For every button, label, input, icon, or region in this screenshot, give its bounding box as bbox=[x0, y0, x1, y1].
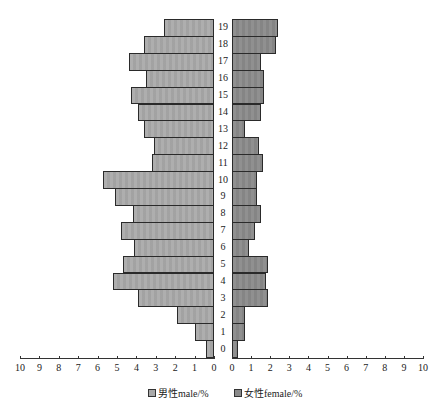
population-pyramid-chart: 012345678910111213141516171819 109876543… bbox=[0, 0, 443, 405]
female-bar-19 bbox=[232, 19, 278, 37]
male-bar-10 bbox=[103, 171, 214, 189]
x-tick-label: 0 bbox=[222, 362, 242, 373]
x-tick-label: 2 bbox=[260, 362, 280, 373]
x-tick-label: 1 bbox=[241, 362, 261, 373]
x-tick bbox=[385, 356, 386, 359]
x-tick-label: 8 bbox=[375, 362, 395, 373]
legend-female-label: 女性female/% bbox=[244, 385, 302, 400]
legend-male-label: 男性male/% bbox=[158, 385, 209, 400]
x-tick bbox=[195, 356, 196, 359]
x-tick bbox=[308, 356, 309, 359]
male-bar-11 bbox=[152, 154, 214, 172]
age-label: 17 bbox=[213, 56, 233, 66]
x-tick-label: 7 bbox=[68, 362, 88, 373]
female-bar-5 bbox=[232, 256, 268, 274]
x-tick bbox=[328, 356, 329, 359]
x-tick bbox=[214, 356, 215, 359]
male-swatch-icon bbox=[148, 389, 156, 397]
x-tick-label: 6 bbox=[88, 362, 108, 373]
x-tick bbox=[366, 356, 367, 359]
age-label: 2 bbox=[213, 310, 233, 320]
female-bar-14 bbox=[232, 104, 261, 122]
x-tick-label: 0 bbox=[204, 362, 224, 373]
age-label: 11 bbox=[213, 158, 233, 168]
x-tick bbox=[78, 356, 79, 359]
x-tick bbox=[156, 356, 157, 359]
female-bar-3 bbox=[232, 289, 268, 307]
male-bar-13 bbox=[144, 120, 214, 138]
female-bar-6 bbox=[232, 239, 249, 257]
age-label: 14 bbox=[213, 107, 233, 117]
male-bar-7 bbox=[121, 222, 214, 240]
age-label: 19 bbox=[213, 22, 233, 32]
x-tick-label: 9 bbox=[394, 362, 414, 373]
x-tick-label: 4 bbox=[298, 362, 318, 373]
x-tick-label: 4 bbox=[126, 362, 146, 373]
female-bar-15 bbox=[232, 87, 264, 105]
x-tick bbox=[175, 356, 176, 359]
female-swatch-icon bbox=[234, 389, 242, 397]
male-bar-8 bbox=[133, 205, 214, 223]
male-bar-1 bbox=[195, 323, 214, 341]
female-bar-4 bbox=[232, 273, 266, 291]
female-bar-16 bbox=[232, 70, 264, 88]
x-tick bbox=[347, 356, 348, 359]
x-tick bbox=[136, 356, 137, 359]
female-bar-13 bbox=[232, 120, 245, 138]
male-bar-9 bbox=[115, 188, 214, 206]
female-bar-2 bbox=[232, 306, 245, 324]
male-bar-19 bbox=[164, 19, 214, 37]
x-tick bbox=[20, 356, 21, 359]
male-bar-3 bbox=[138, 289, 214, 307]
age-label: 15 bbox=[213, 90, 233, 100]
female-bar-11 bbox=[232, 154, 263, 172]
x-tick bbox=[98, 356, 99, 359]
age-label: 1 bbox=[213, 327, 233, 337]
male-bar-16 bbox=[146, 70, 214, 88]
male-bar-5 bbox=[123, 256, 214, 274]
male-bar-18 bbox=[144, 36, 214, 54]
x-tick bbox=[59, 356, 60, 359]
age-label: 5 bbox=[213, 259, 233, 269]
female-bar-1 bbox=[232, 323, 245, 341]
age-label: 6 bbox=[213, 242, 233, 252]
x-tick-label: 1 bbox=[185, 362, 205, 373]
male-bar-2 bbox=[177, 306, 214, 324]
x-tick-label: 9 bbox=[29, 362, 49, 373]
x-tick-label: 3 bbox=[279, 362, 299, 373]
female-bar-8 bbox=[232, 205, 261, 223]
x-tick-label: 5 bbox=[318, 362, 338, 373]
female-bar-7 bbox=[232, 222, 255, 240]
age-label: 16 bbox=[213, 73, 233, 83]
x-tick bbox=[39, 356, 40, 359]
x-tick bbox=[232, 356, 233, 359]
male-bar-6 bbox=[134, 239, 214, 257]
male-bar-17 bbox=[129, 53, 214, 71]
male-bar-12 bbox=[154, 137, 214, 155]
female-bar-9 bbox=[232, 188, 257, 206]
age-label: 10 bbox=[213, 175, 233, 185]
x-tick bbox=[423, 356, 424, 359]
age-label: 18 bbox=[213, 39, 233, 49]
x-tick-label: 10 bbox=[10, 362, 30, 373]
x-tick-label: 10 bbox=[413, 362, 433, 373]
x-tick bbox=[404, 356, 405, 359]
male-bar-4 bbox=[113, 273, 214, 291]
x-tick-label: 3 bbox=[146, 362, 166, 373]
x-tick-label: 8 bbox=[49, 362, 69, 373]
female-bar-18 bbox=[232, 36, 276, 54]
x-tick-label: 7 bbox=[356, 362, 376, 373]
age-label: 4 bbox=[213, 276, 233, 286]
x-tick-label: 5 bbox=[107, 362, 127, 373]
age-label: 0 bbox=[213, 344, 233, 354]
x-tick-label: 2 bbox=[165, 362, 185, 373]
legend-male: 男性male/% bbox=[148, 385, 209, 400]
age-label: 7 bbox=[213, 225, 233, 235]
x-tick-label: 6 bbox=[337, 362, 357, 373]
x-tick bbox=[289, 356, 290, 359]
male-bar-15 bbox=[131, 87, 214, 105]
x-tick bbox=[251, 356, 252, 359]
legend-female: 女性female/% bbox=[234, 385, 302, 400]
male-bar-14 bbox=[138, 104, 214, 122]
age-label: 13 bbox=[213, 124, 233, 134]
